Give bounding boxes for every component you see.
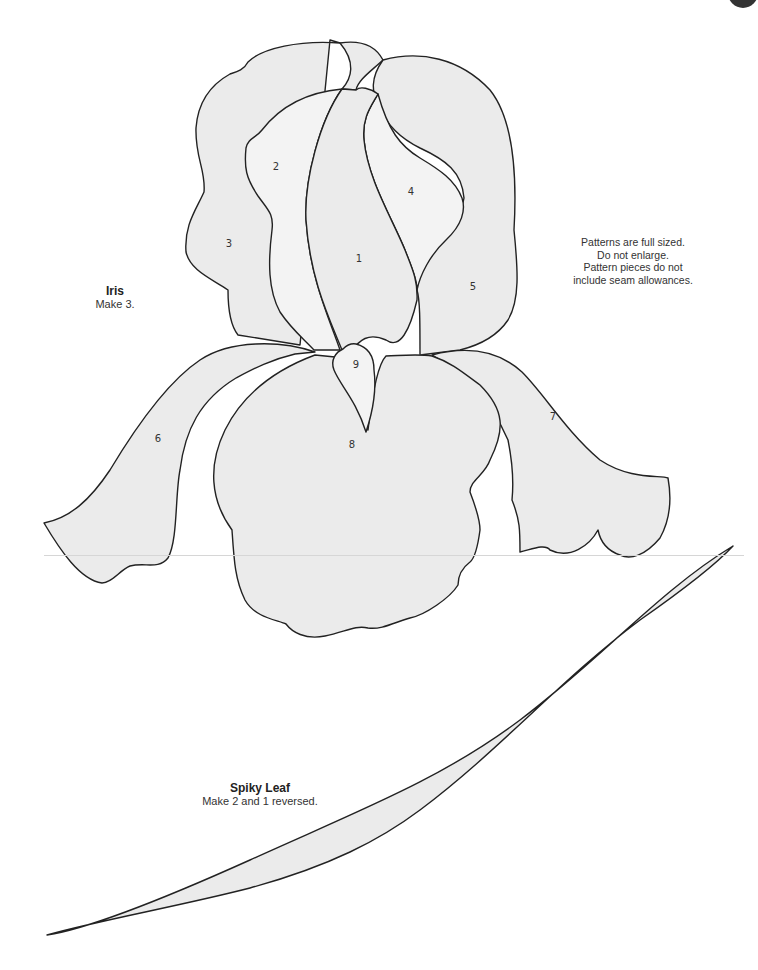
piece-number-7: 7 [550, 411, 556, 422]
piece-number-4: 4 [408, 186, 414, 197]
iris-instruction: Make 3. [85, 298, 145, 311]
spiky-leaf-instruction: Make 2 and 1 reversed. [175, 795, 345, 808]
note-line-1: Patterns are full sized. [548, 236, 718, 249]
page-fold-line [44, 555, 744, 556]
iris-title: Iris [85, 284, 145, 298]
piece-number-5: 5 [470, 281, 476, 292]
iris-label: Iris Make 3. [85, 284, 145, 311]
piece-number-9: 9 [353, 359, 359, 370]
spiky-leaf-title: Spiky Leaf [175, 781, 345, 795]
note-line-3: Pattern pieces do not [548, 261, 718, 274]
pattern-size-note: Patterns are full sized. Do not enlarge.… [548, 236, 718, 286]
piece-number-6: 6 [155, 433, 161, 444]
note-line-2: Do not enlarge. [548, 249, 718, 262]
piece-number-1: 1 [356, 253, 362, 264]
piece-number-2: 2 [273, 161, 279, 172]
note-line-4: include seam allowances. [548, 274, 718, 287]
piece-number-8: 8 [349, 439, 355, 450]
piece-number-3: 3 [226, 238, 232, 249]
spiky-leaf-label: Spiky Leaf Make 2 and 1 reversed. [175, 781, 345, 808]
